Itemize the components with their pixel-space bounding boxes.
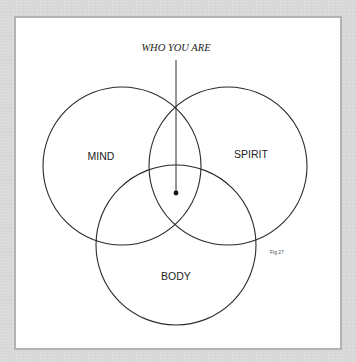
spirit-label: SPIRIT [234, 148, 268, 160]
center-dot [174, 191, 179, 196]
diagram-title: WHO YOU ARE [141, 42, 211, 53]
venn-diagram: WHO YOU ARE MIND SPIRIT BODY Fig 27 [0, 0, 356, 362]
spirit-circle [149, 87, 307, 245]
mind-label: MIND [88, 150, 115, 162]
body-label: BODY [161, 270, 191, 282]
mind-circle [43, 87, 201, 245]
figure-number: Fig 27 [270, 249, 284, 255]
